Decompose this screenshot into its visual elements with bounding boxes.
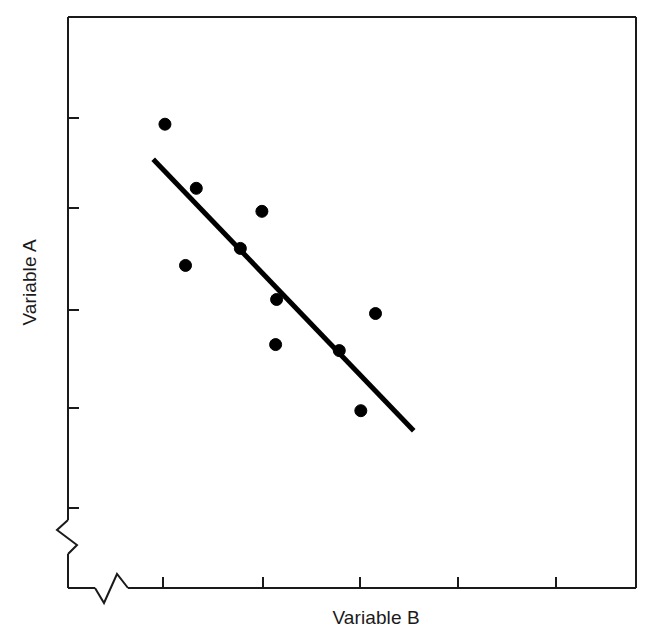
data-point-layer — [159, 118, 382, 417]
x-axis-break-icon — [95, 574, 128, 603]
data-point — [333, 345, 345, 357]
data-point — [370, 308, 382, 320]
data-point — [190, 182, 202, 194]
trend-line-segment — [153, 159, 413, 430]
data-point — [355, 405, 367, 417]
data-point — [256, 205, 268, 217]
axis-frame — [57, 17, 636, 603]
y-axis-ticks — [68, 118, 79, 508]
y-axis-break-icon — [57, 520, 77, 554]
data-point — [159, 118, 171, 130]
data-point — [270, 339, 282, 351]
data-point — [234, 242, 246, 254]
data-point — [180, 259, 192, 271]
trend-line — [153, 159, 413, 430]
x-axis-label: Variable B — [333, 607, 420, 629]
x-axis-ticks — [163, 577, 556, 588]
scatter-plot-figure: Variable A Variable B — [0, 0, 662, 637]
y-axis-label: Variable A — [19, 239, 41, 325]
data-point — [271, 293, 283, 305]
plot-canvas — [0, 0, 662, 637]
